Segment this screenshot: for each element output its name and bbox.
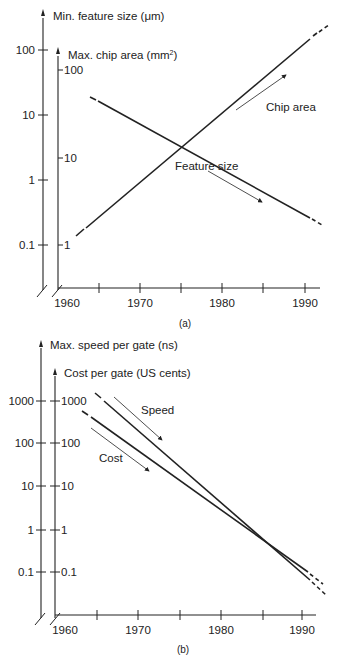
- panel-label-a: (a): [179, 318, 191, 329]
- tick-label: 10: [61, 480, 74, 492]
- speed-label: Speed: [141, 404, 174, 416]
- tick-label: 100: [16, 44, 35, 56]
- cost-arrow: [91, 428, 149, 471]
- chip-area-dash-start: [76, 229, 84, 236]
- arrow-up-icon: [39, 340, 43, 347]
- tick-label: 0.1: [19, 239, 35, 251]
- chart-a-text: Min. feature size (μm) Max. chip area (m…: [16, 10, 318, 329]
- tick-label: 100: [15, 437, 34, 449]
- year-label: 1980: [209, 297, 235, 309]
- year-label: 1960: [54, 297, 80, 309]
- year-label: 1980: [208, 624, 234, 636]
- feature-size-label: Feature size: [175, 160, 238, 172]
- tick-label: 1: [28, 524, 34, 536]
- chip-area-label: Chip area: [266, 101, 316, 113]
- figure: Min. feature size (μm) Max. chip area (m…: [0, 0, 338, 665]
- chart-b-text: Max. speed per gate (ns) Cost per gate (…: [8, 339, 314, 655]
- tick-label: 0.1: [18, 566, 34, 578]
- arrow-up-icon: [53, 368, 57, 375]
- tick-label: 10: [64, 152, 77, 164]
- year-label: 1970: [127, 297, 153, 309]
- outer-axis-label-a: Min. feature size (μm): [53, 10, 165, 22]
- speed-line: [104, 401, 310, 580]
- panel-label-b: (b): [177, 644, 189, 655]
- inner-axis-label-b: Cost per gate (US cents): [64, 367, 191, 379]
- year-label: 1990: [292, 297, 318, 309]
- tick-label: 1: [29, 174, 35, 186]
- tick-label: 1000: [8, 395, 34, 407]
- outer-axis-label-b: Max. speed per gate (ns): [50, 339, 178, 351]
- arrow-up-icon: [56, 47, 60, 54]
- cost-label: Cost: [99, 452, 123, 464]
- tick-label: 1: [64, 239, 70, 251]
- tick-label: 0.1: [61, 566, 77, 578]
- tick-label: 10: [22, 109, 35, 121]
- year-label: 1990: [289, 624, 315, 636]
- year-label: 1960: [52, 624, 78, 636]
- chart-b: [35, 340, 326, 625]
- inner-axis-label-a: Max. chip area (mm2): [68, 49, 178, 61]
- tick-label: 1000: [61, 395, 87, 407]
- tick-label: 100: [61, 437, 80, 449]
- arrow-up-icon: [41, 9, 45, 16]
- cost-line: [91, 417, 308, 572]
- tick-label: 1: [61, 524, 67, 536]
- tick-label: 100: [64, 64, 83, 76]
- year-label: 1970: [125, 624, 151, 636]
- tick-label: 10: [21, 480, 34, 492]
